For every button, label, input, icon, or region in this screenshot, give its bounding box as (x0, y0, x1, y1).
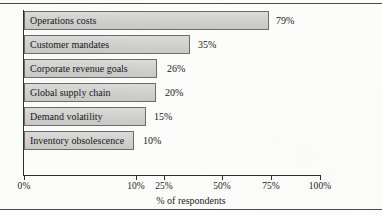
bar: Customer mandates (24, 35, 190, 54)
x-axis-tick (320, 175, 321, 180)
plot-area: Operations costs 79% Customer mandates 3… (0, 5, 382, 205)
x-axis-tick (222, 175, 223, 180)
x-axis-tick-label: 25% (155, 181, 173, 192)
bar-category-label: Customer mandates (30, 39, 109, 51)
x-axis-line (23, 175, 320, 176)
bar-category-label: Corporate revenue goals (30, 63, 128, 75)
x-axis-tick (136, 175, 137, 180)
bottom-horizontal-rule (0, 209, 382, 210)
x-axis-tick-label: 10% (127, 181, 145, 192)
bar-category-label: Global supply chain (30, 87, 111, 99)
bar-chart-figure: . Operations costs 79% Customer mandates… (0, 0, 382, 215)
title-fragment: . (186, 0, 198, 4)
bar: Global supply chain (24, 83, 156, 102)
bar: Inventory obsolescence (24, 131, 134, 150)
x-axis-tick-label: 50% (213, 181, 231, 192)
bar-value-label: 20% (165, 87, 183, 99)
x-axis-tick-label: 75% (262, 181, 280, 192)
x-axis-tick-label: 0% (18, 181, 31, 192)
x-axis-title: % of respondents (0, 195, 382, 207)
bar-category-label: Inventory obsolescence (30, 135, 124, 147)
x-axis-tick-label: 100% (309, 181, 332, 192)
bar-category-label: Operations costs (30, 15, 96, 27)
bar: Corporate revenue goals (24, 59, 157, 78)
bar-value-label: 10% (143, 135, 161, 147)
bar-category-label: Demand volatility (30, 111, 103, 123)
bar-value-label: 15% (154, 111, 172, 123)
x-axis-tick (164, 175, 165, 180)
x-axis-tick (24, 175, 25, 180)
x-axis-tick (271, 175, 272, 180)
bar-value-label: 35% (198, 39, 216, 51)
bar: Operations costs (24, 11, 269, 30)
bar: Demand volatility (24, 107, 146, 126)
bar-value-label: 79% (276, 15, 294, 27)
bar-value-label: 26% (167, 63, 185, 75)
